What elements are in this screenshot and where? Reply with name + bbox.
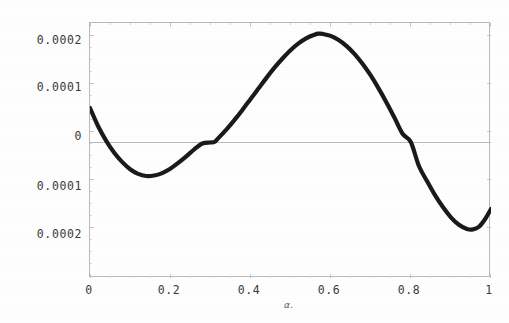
plot-area [89, 22, 490, 277]
y-tick-label-0: 0.0002 [37, 34, 82, 46]
x-tick-label-3: 0.6 [318, 284, 341, 296]
x-tick-label-2: 0.4 [238, 284, 261, 296]
y-axis-tick-labels: 0.0002 0.0001 0 0.0001 0.0002 [0, 0, 82, 323]
x-tick-label-0: 0 [85, 284, 93, 296]
x-axis-title: α. [284, 300, 294, 310]
y-tick-label-3: 0.0001 [37, 180, 82, 192]
frame-ticks [90, 23, 491, 278]
data-curve [90, 34, 491, 230]
x-tick-label-4: 0.8 [398, 284, 421, 296]
plot-canvas [90, 23, 491, 278]
y-tick-label-4: 0.0002 [37, 228, 82, 240]
x-tick-label-5: 1 [485, 284, 493, 296]
y-tick-label-1: 0.0001 [37, 81, 82, 93]
chart-screenshot: 0.0002 0.0001 0 0.0001 0.0002 [0, 0, 509, 323]
y-tick-label-2: 0 [74, 130, 82, 142]
x-tick-label-1: 0.2 [158, 284, 181, 296]
